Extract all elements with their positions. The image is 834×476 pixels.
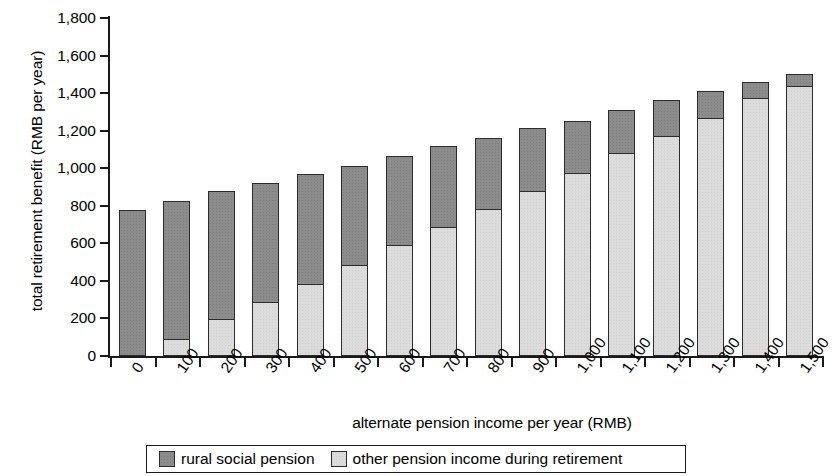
y-axis-tick-label: 1,400 [0,85,96,101]
x-axis-tick [244,358,246,367]
y-axis-tick [100,92,109,94]
bar-1100 [608,110,635,356]
x-axis-title: alternate pension income per year (RMB) [0,414,834,432]
y-axis-tick [100,317,109,319]
y-axis-title: total retirement benefit (RMB per year) [28,16,46,346]
x-axis-tick [600,358,602,367]
y-axis-tick [100,280,109,282]
y-axis-tick-label: 800 [0,198,96,214]
segment-other-pension-income [519,191,546,356]
y-axis-tick-label: 1,200 [0,123,96,139]
y-axis-tick [100,130,109,132]
bar-700 [430,146,457,356]
segment-other-pension-income [608,153,635,356]
chart-legend: rural social pensionother pension income… [146,445,686,473]
segment-rural-social-pension [608,110,635,154]
x-axis-tick [155,358,157,367]
y-axis-tick [100,167,109,169]
segment-other-pension-income [341,265,368,356]
bar-0 [119,210,146,356]
segment-other-pension-income [742,98,769,356]
bar-1500 [786,74,813,356]
legend-swatch-light [331,451,347,467]
bar-300 [252,183,279,356]
segment-other-pension-income [564,173,591,356]
segment-other-pension-income [386,245,413,356]
bar-1200 [653,100,680,356]
x-axis-tick [422,358,424,367]
y-axis-tick [100,205,109,207]
legend-item: rural social pension [159,450,315,468]
y-axis-tick-label: 1,000 [0,160,96,176]
segment-rural-social-pension [208,191,235,321]
segment-other-pension-income [475,209,502,356]
x-axis-tick [689,358,691,367]
x-axis-tick [778,358,780,367]
y-axis-tick-label: 1,600 [0,48,96,64]
bar-500 [341,166,368,356]
segment-rural-social-pension [519,128,546,192]
bar-200 [208,191,235,356]
bar-400 [297,174,324,356]
bar-800 [475,138,502,356]
bar-900 [519,128,546,356]
legend-item: other pension income during retirement [331,450,623,468]
bar-1000 [564,121,591,356]
bar-100 [163,201,190,356]
segment-rural-social-pension [341,166,368,266]
bar-600 [386,156,413,356]
bar-1400 [742,82,769,356]
segment-rural-social-pension [430,146,457,229]
y-axis-tick-label: 400 [0,273,96,289]
x-axis-tick-label: 0 [128,359,148,376]
segment-rural-social-pension [297,174,324,285]
segment-rural-social-pension [564,121,591,175]
y-axis-tick [100,355,109,357]
legend-label: rural social pension [181,450,315,468]
segment-other-pension-income [430,227,457,356]
y-axis-tick [100,242,109,244]
segment-rural-social-pension [697,91,724,119]
segment-other-pension-income [786,86,813,356]
bar-1300 [697,91,724,356]
segment-rural-social-pension [386,156,413,246]
y-axis-tick [100,55,109,57]
y-axis-tick-label: 200 [0,310,96,326]
y-axis-tick-label: 0 [0,348,96,364]
x-axis-tick [333,358,335,367]
legend-swatch-dark [159,451,175,467]
plot-area [110,18,822,356]
segment-other-pension-income [653,136,680,356]
segment-rural-social-pension [252,183,279,303]
x-axis-tick [511,358,513,367]
x-axis-title-text: alternate pension income per year (RMB) [202,414,632,431]
segment-rural-social-pension [653,100,680,138]
segment-rural-social-pension [742,82,769,99]
segment-other-pension-income [697,118,724,356]
segment-rural-social-pension [119,210,146,356]
y-axis-tick-label: 600 [0,235,96,251]
segment-rural-social-pension [163,201,190,341]
y-axis-tick-label: 1,800 [0,10,96,26]
y-axis-tick [100,17,109,19]
x-axis-tick [110,358,112,367]
segment-rural-social-pension [475,138,502,210]
stacked-bar-chart: total retirement benefit (RMB per year) … [0,0,834,476]
legend-label: other pension income during retirement [353,450,623,468]
